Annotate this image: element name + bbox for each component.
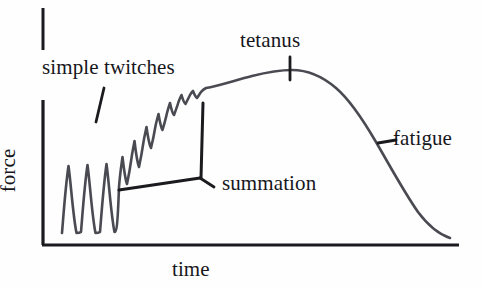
x-axis-label: time (172, 259, 210, 280)
y-axis-label: force (0, 149, 19, 193)
force-time-diagram: simple twitches tetanus summation fatigu… (0, 0, 481, 288)
simple-twitches-leader-line (96, 88, 104, 122)
label-fatigue: fatigue (393, 128, 452, 149)
label-simple-twitches: simple twitches (42, 57, 175, 78)
label-tetanus: tetanus (240, 30, 300, 51)
summation-bracket-riser (201, 103, 203, 178)
summation-leader-line (200, 178, 214, 187)
label-summation: summation (222, 173, 316, 194)
force-curve (62, 70, 450, 238)
summation-bracket-rail (119, 178, 200, 190)
